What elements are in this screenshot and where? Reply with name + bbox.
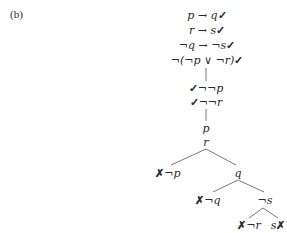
tree-edges (0, 0, 287, 233)
branch1-left-node: ✗¬p (155, 167, 180, 180)
branch3-left-node: ✗¬r (237, 219, 260, 232)
premise-3: ¬q → ¬s✓ (179, 39, 235, 52)
branch1-right-node: q (234, 167, 241, 180)
edge-branch2-left (213, 180, 238, 192)
premise-4: ¬(¬p ∨ ¬r)✓ (171, 54, 244, 67)
branch3-right-node: s✗ (271, 219, 286, 232)
branch2-right-node: ¬s (258, 194, 273, 207)
premise-2: r → s✓ (189, 24, 225, 37)
cross-icon: ✗ (276, 219, 285, 232)
cross-icon: ✗ (237, 219, 246, 232)
branch2-left-node: ✗¬q (195, 194, 220, 207)
check-icon: ✓ (190, 96, 199, 109)
edge-branch1-left (171, 149, 206, 165)
atom-r: r (203, 136, 208, 149)
derived-1: ✓¬¬p (189, 82, 223, 95)
check-icon: ✓ (234, 54, 243, 67)
premise-1: p → q✓ (187, 9, 226, 22)
edge-branch3-right (263, 208, 278, 218)
check-icon: ✓ (218, 9, 227, 22)
edge-branch1-right (206, 149, 236, 165)
edge-branch2-right (238, 180, 264, 192)
atom-p: p (202, 122, 209, 135)
edge-branch3-left (249, 208, 263, 218)
check-icon: ✓ (189, 82, 198, 95)
derived-2: ✓¬¬r (190, 96, 223, 109)
check-icon: ✓ (226, 39, 235, 52)
cross-icon: ✗ (195, 194, 204, 207)
cross-icon: ✗ (155, 167, 164, 180)
check-icon: ✓ (216, 24, 225, 37)
